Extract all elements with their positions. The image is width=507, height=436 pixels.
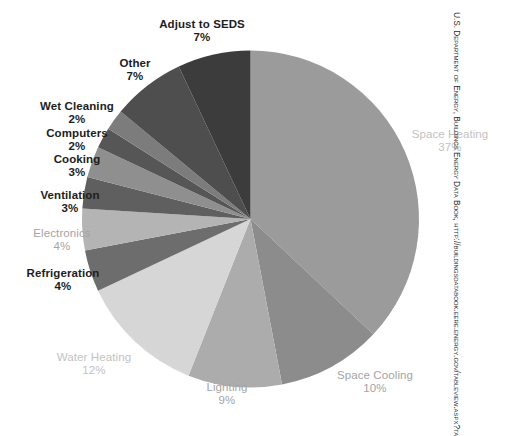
pie-label-space-cooling: Space Cooling 10% bbox=[321, 369, 429, 396]
pie-label-wet-cleaning: Wet Cleaning 2% bbox=[22, 100, 132, 127]
pie-label-name: Space Cooling bbox=[321, 369, 429, 382]
pie-label-percent: 12% bbox=[38, 364, 150, 377]
pie-label-computers: Computers 2% bbox=[25, 127, 129, 154]
pie-label-water-heating: Water Heating 12% bbox=[38, 351, 150, 378]
pie-label-percent: 3% bbox=[18, 202, 122, 215]
pie-label-percent: 4% bbox=[8, 240, 116, 253]
pie-label-name: Other bbox=[85, 57, 185, 70]
pie-label-refrigeration: Refrigeration 4% bbox=[6, 267, 120, 294]
pie-label-percent: 4% bbox=[6, 280, 120, 293]
pie-label-name: Refrigeration bbox=[6, 267, 120, 280]
pie-label-name: Lighting bbox=[184, 381, 270, 394]
pie-label-name: Ventilation bbox=[18, 189, 122, 202]
pie-label-name: Computers bbox=[25, 127, 129, 140]
pie-label-name: Cooking bbox=[30, 153, 124, 166]
pie-label-adjust-to-seds: Adjust to SEDS 7% bbox=[137, 18, 267, 45]
pie-label-name: Water Heating bbox=[38, 351, 150, 364]
pie-slice-group bbox=[82, 50, 419, 387]
pie-label-percent: 2% bbox=[22, 113, 132, 126]
pie-label-electronics: Electronics 4% bbox=[8, 227, 116, 254]
pie-label-percent: 3% bbox=[30, 166, 124, 179]
pie-label-lighting: Lighting 9% bbox=[184, 381, 270, 408]
pie-label-name: Adjust to SEDS bbox=[137, 18, 267, 31]
pie-label-ventilation: Ventilation 3% bbox=[18, 189, 122, 216]
pie-label-percent: 9% bbox=[184, 394, 270, 407]
pie-label-percent: 2% bbox=[25, 140, 129, 153]
source-credit: U.S. Department of Energy, Buildings Ene… bbox=[444, 0, 470, 436]
pie-label-name: Wet Cleaning bbox=[22, 100, 132, 113]
pie-label-name: Electronics bbox=[8, 227, 116, 240]
pie-label-cooking: Cooking 3% bbox=[30, 153, 124, 180]
pie-label-other: Other 7% bbox=[85, 57, 185, 84]
pie-label-percent: 7% bbox=[137, 31, 267, 44]
pie-chart-figure: Space Heating 37% Space Cooling 10% Ligh… bbox=[0, 0, 507, 436]
pie-label-percent: 10% bbox=[321, 382, 429, 395]
pie-label-percent: 7% bbox=[85, 70, 185, 83]
